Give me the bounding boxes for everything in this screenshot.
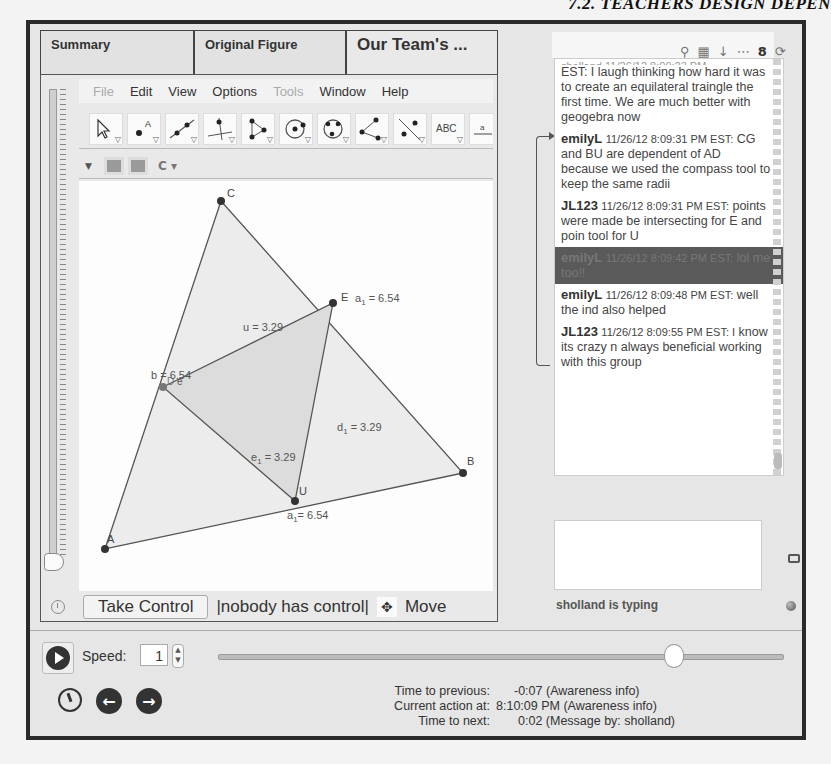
time-to-previous-row: Time to previous: -0:07 (Awareness info) [360, 684, 708, 699]
point-e[interactable] [329, 299, 337, 307]
chat-message: JL123 11/26/12 8:09:31 PM EST: points we… [555, 195, 783, 247]
play-icon [46, 646, 70, 670]
page-header: 7.2. TEACHERS DESIGN DEPEN [568, 0, 831, 14]
tab-our-team[interactable]: Our Team's ... [346, 30, 498, 76]
menu-view[interactable]: View [168, 84, 196, 99]
time-to-next-row: Time to next: 0:02 (Message by: sholland… [360, 714, 708, 729]
stylebar-toggle-icon[interactable]: ▼ [85, 161, 92, 171]
grid-icon[interactable]: ▦ [698, 44, 710, 59]
chat-message: sholland 11/26/12 8:09:23 PM EST: I laug… [555, 59, 783, 128]
reference-link-arrow [536, 136, 550, 366]
svg-text:A: A [107, 533, 115, 545]
time-info: Time to previous: -0:07 (Awareness info)… [360, 684, 708, 729]
speed-input[interactable]: 1 [140, 644, 168, 666]
move-icon: ✥ [377, 597, 397, 617]
point-d[interactable] [159, 383, 167, 391]
geogebra-panel: File Edit View Options Tools Window Help… [40, 74, 498, 622]
point-tool-button[interactable]: A▽ [127, 113, 161, 145]
vmt-replayer-window: Summary Original Figure Our Team's ... F… [26, 20, 806, 740]
chat-input[interactable] [554, 520, 762, 590]
point-c[interactable] [217, 197, 225, 205]
svg-text:u = 3.29: u = 3.29 [243, 321, 283, 333]
next-event-button[interactable]: → [136, 688, 162, 714]
previous-event-button[interactable]: ← [96, 688, 122, 714]
send-message-icon[interactable] [788, 554, 800, 563]
line-style-dropdown[interactable]: C ▾ [158, 159, 177, 173]
chat-messages[interactable]: sholland 11/26/12 8:09:23 PM EST: I laug… [554, 58, 784, 476]
download-icon[interactable]: ↓ [718, 44, 729, 59]
clock-icon[interactable] [51, 600, 65, 614]
point-b[interactable] [459, 469, 467, 477]
line-tool-button[interactable]: ▽ [165, 113, 199, 145]
svg-text:C: C [227, 187, 235, 199]
chat-scrollbar-thumb[interactable] [774, 453, 782, 469]
current-tool-label: Move [405, 597, 447, 617]
fill-swatch-button[interactable] [128, 157, 148, 175]
svg-text:B: B [467, 455, 474, 467]
history-slider-ticks [60, 89, 66, 557]
menu-tools[interactable]: Tools [273, 84, 303, 99]
color-swatch-button[interactable] [104, 157, 124, 175]
connection-status-icon [786, 601, 796, 611]
chat-message: JL123 11/26/12 8:09:55 PM EST: I know it… [555, 321, 783, 373]
slider-tool-icon: a [472, 116, 493, 142]
chat-message: emilyL 11/26/12 8:09:48 PM EST: well the… [555, 284, 783, 321]
svg-text:ABC: ABC [436, 123, 457, 134]
speed-label: Speed: [82, 648, 126, 664]
menu-options[interactable]: Options [212, 84, 257, 99]
search-icon[interactable]: ⚲ [680, 44, 690, 59]
tab-bar: Summary Original Figure Our Team's ... [40, 30, 498, 76]
point-a[interactable] [101, 545, 109, 553]
perpendicular-tool-button[interactable]: ▽ [203, 113, 237, 145]
timeline-slider-knob[interactable] [664, 644, 684, 668]
menu-window[interactable]: Window [319, 84, 365, 99]
svg-text:a1 = 6.54: a1 = 6.54 [355, 292, 400, 307]
svg-text:b = 6.54: b = 6.54 [151, 369, 191, 381]
svg-text:E: E [341, 291, 348, 303]
control-status: |nobody has control| [216, 597, 369, 617]
tab-summary[interactable]: Summary [40, 30, 194, 76]
chat-message-highlighted: emilyL 11/26/12 8:09:42 PM EST: lol me t… [555, 247, 783, 284]
menu-edit[interactable]: Edit [130, 84, 152, 99]
user-icon[interactable]: 8 [758, 44, 767, 59]
reflect-tool-button[interactable]: ▽ [393, 113, 427, 145]
svg-text:a: a [480, 123, 485, 132]
menu-help[interactable]: Help [382, 84, 409, 99]
arrow-left-icon: ← [102, 692, 115, 711]
polygon-tool-button[interactable]: ▽ [241, 113, 275, 145]
circle-center-tool-button[interactable]: ▽ [279, 113, 313, 145]
history-slider-track[interactable] [49, 89, 57, 559]
graphics-view[interactable]: C A B E U D e a1 = 6.54 u = 3.29 b = 6.5… [79, 181, 493, 591]
divider [30, 630, 802, 631]
tab-original-figure[interactable]: Original Figure [194, 30, 346, 76]
move-tool-button[interactable]: ▽ [89, 113, 123, 145]
circle-three-points-tool-button[interactable]: ▽ [317, 113, 351, 145]
text-tool-button[interactable]: ABC▽ [431, 113, 465, 145]
geogebra-toolbar: ▽ A▽ ▽ ▽ ▽ ▽ ▽ ▽ ▽ [79, 109, 493, 149]
clock-icon[interactable] [58, 688, 82, 712]
style-bar: ▼ C ▾ [79, 153, 493, 179]
typing-status: sholland is typing [556, 598, 658, 612]
control-bar: Take Control |nobody has control| ✥ Move [45, 595, 495, 619]
slider-tool-button[interactable]: a [469, 113, 493, 145]
more-icon[interactable]: ⋯ [737, 44, 750, 59]
current-action-row: Current action at: 8:10:09 PM (Awareness… [360, 699, 708, 714]
angle-tool-button[interactable]: ▽ [355, 113, 389, 145]
refresh-icon[interactable]: ⟳ [775, 44, 786, 59]
arrow-right-icon: → [142, 692, 155, 711]
svg-text:A: A [145, 119, 151, 129]
chat-toolbar: ⚲ ▦ ↓ ⋯ 8 ⟳ [680, 44, 786, 59]
timeline-slider[interactable] [218, 654, 784, 660]
menu-file[interactable]: File [93, 84, 114, 99]
point-u[interactable] [291, 497, 299, 505]
speed-stepper[interactable]: ▲▼ [172, 644, 184, 668]
replay-navigation: ← → [58, 688, 162, 714]
triangle-figure: C A B E U D e a1 = 6.54 u = 3.29 b = 6.5… [79, 181, 493, 591]
take-control-button[interactable]: Take Control [83, 595, 208, 619]
history-slider-knob[interactable] [44, 553, 64, 571]
chat-scrollbar[interactable] [773, 59, 781, 475]
svg-text:a1= 6.54: a1= 6.54 [287, 509, 328, 524]
chat-message: emilyL 11/26/12 8:09:31 PM EST: CG and B… [555, 128, 783, 195]
menu-bar: File Edit View Options Tools Window Help [79, 79, 493, 103]
play-button[interactable] [42, 642, 74, 674]
